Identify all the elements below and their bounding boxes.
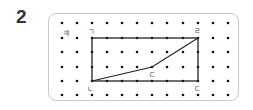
grid-dot — [166, 94, 169, 97]
grid-dot — [121, 51, 124, 54]
dot-grid-figure: 예 ㄱ ㄴ ㄷ ㄹ ㄷ — [0, 0, 253, 110]
grid-dot — [106, 51, 109, 54]
vertex-label-b: ㄴ — [87, 85, 93, 93]
grid-dot — [61, 22, 64, 25]
grid-dot — [166, 66, 169, 69]
vertex-label-d: ㄹ — [194, 27, 200, 35]
grid-dot — [106, 22, 109, 25]
grid-dot — [76, 94, 79, 97]
grid-dot — [227, 66, 230, 69]
grid-dot — [136, 66, 139, 69]
grid-dot — [227, 94, 230, 97]
rectangle-shape — [92, 38, 198, 81]
grid-dot — [166, 51, 169, 54]
grid-dot — [76, 51, 79, 54]
grid-dot — [197, 22, 200, 25]
grid-dot — [136, 22, 139, 25]
grid-dot — [212, 37, 215, 40]
grid-dot — [121, 94, 124, 97]
grid-dot — [121, 66, 124, 69]
grid-dot — [227, 22, 230, 25]
grid-dot — [76, 22, 79, 25]
grid-dot — [136, 94, 139, 97]
vertex-label-e: ㄷ — [194, 85, 200, 93]
grid-dot — [212, 66, 215, 69]
grid-dot — [182, 66, 185, 69]
example-label: 예 — [64, 29, 70, 37]
vertex-label-a: ㄱ — [88, 28, 94, 36]
grid-dot — [151, 51, 154, 54]
grid-dot — [182, 22, 185, 25]
grid-dot — [61, 37, 64, 40]
grid-dot — [121, 22, 124, 25]
grid-dot — [166, 22, 169, 25]
grid-dot — [212, 22, 215, 25]
grid-dot — [151, 94, 154, 97]
grid-dot — [76, 66, 79, 69]
grid-dot — [106, 94, 109, 97]
grid-dot — [76, 37, 79, 40]
grid-dot — [61, 80, 64, 83]
grid-dot — [91, 22, 94, 25]
grid-dot — [227, 51, 230, 54]
grid-dots — [61, 22, 230, 97]
grid-dot — [61, 51, 64, 54]
grid-dot — [106, 66, 109, 69]
diagonal-path — [92, 38, 198, 81]
grid-dot — [61, 66, 64, 69]
grid-dot — [151, 22, 154, 25]
grid-dot — [136, 51, 139, 54]
grid-dot — [182, 51, 185, 54]
grid-dot — [227, 37, 230, 40]
grid-dot — [212, 80, 215, 83]
grid-dot — [61, 94, 64, 97]
grid-dot — [212, 94, 215, 97]
vertex-label-c: ㄷ — [149, 71, 155, 79]
grid-dot — [227, 80, 230, 83]
grid-dot — [212, 51, 215, 54]
grid-dot — [76, 80, 79, 83]
grid-dot — [91, 94, 94, 97]
grid-dot — [182, 94, 185, 97]
grid-dot — [197, 94, 200, 97]
